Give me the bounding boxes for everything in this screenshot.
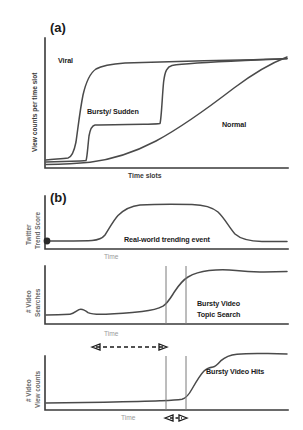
panel-b-sub1-xlabel: Time bbox=[104, 253, 118, 260]
panel-b-sub3-xlabel: Time bbox=[121, 414, 135, 421]
panel-a-tag: (a) bbox=[50, 20, 66, 35]
panel-a-ylabel: View counts per time slot bbox=[31, 73, 39, 152]
panel-b-sub2-annotation-line2: Topic Search bbox=[197, 310, 240, 319]
panel-b-sub2-ylabel-line1: # Video bbox=[25, 290, 32, 313]
origin-dot-marker bbox=[44, 238, 51, 245]
panel-b-sub3-ylabel-line2: View counts bbox=[34, 371, 41, 408]
curve-label-viral: Viral bbox=[58, 56, 73, 65]
panel-b-sub2-ylabel-line2: Searches bbox=[34, 289, 41, 317]
panel-b-sub3-ylabel-line1: # Video bbox=[25, 379, 32, 402]
lag-arrow-long bbox=[92, 344, 167, 350]
figure-graphics bbox=[0, 0, 303, 430]
figure-container: (a) View counts per time slot Time slots… bbox=[0, 0, 303, 430]
panel-a-curve-normal bbox=[46, 57, 287, 165]
panel-a-xlabel: Time slots bbox=[128, 172, 162, 179]
panel-b-tag: (b) bbox=[50, 190, 67, 205]
panel-b-sub3-guide-lines bbox=[166, 356, 186, 410]
panel-b-sub3-annotation: Bursty Video Hits bbox=[206, 367, 264, 376]
panel-a-curve-viral bbox=[46, 59, 287, 161]
panel-b-sub2-xlabel: Time bbox=[104, 330, 118, 337]
lag-arrow-short bbox=[165, 415, 187, 421]
panel-b-sub2-annotation-line1: Bursty Video bbox=[197, 299, 240, 308]
curve-label-bursty: Bursty/ Sudden bbox=[87, 107, 139, 116]
panel-b-sub1-ylabel-line2: Trend Score bbox=[34, 212, 41, 249]
panel-b-sub2-guide-lines bbox=[166, 266, 186, 324]
panel-a-curve-bursty bbox=[46, 59, 287, 162]
curve-label-normal: Normal bbox=[222, 120, 246, 129]
panel-b-sub1-annotation: Real-world trending event bbox=[124, 235, 210, 244]
panel-b-sub1-ylabel-line1: Twitter bbox=[25, 225, 32, 245]
